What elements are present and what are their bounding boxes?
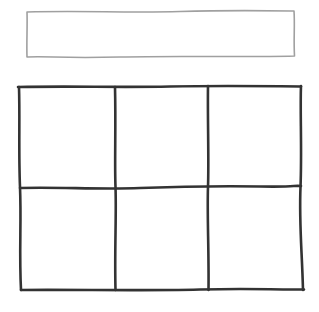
search-input[interactable]	[26, 11, 294, 57]
grid-cell-r1-c3[interactable]	[211, 89, 299, 185]
grid-cell-r2-c1[interactable]	[21, 190, 113, 288]
grid-right-border	[300, 86, 303, 290]
grid-cell-r1-c2[interactable]	[118, 89, 206, 185]
grid-cell-r1-c1[interactable]	[21, 89, 113, 185]
grid-top-border	[18, 86, 301, 87]
grid-bottom-border	[21, 289, 304, 290]
grid-row-divider	[20, 186, 301, 189]
grid-column-divider-2	[208, 86, 209, 290]
grid-cell-r2-c3[interactable]	[211, 190, 299, 288]
grid-cell-r2-c2[interactable]	[118, 190, 206, 288]
